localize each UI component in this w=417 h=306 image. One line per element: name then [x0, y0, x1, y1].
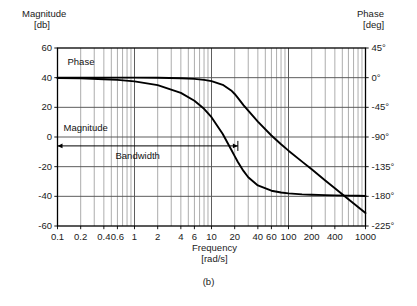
y-tick-label-left: -40	[38, 190, 52, 201]
y-tick-label-right: -90°	[372, 131, 390, 142]
bode-plot-figure: Magnitude [db] Phase [deg] Frequency [ra…	[0, 0, 417, 306]
x-axis-title-text1: Frequency	[6, 242, 417, 253]
x-tick-label: 1000	[336, 231, 396, 242]
x-axis-title: Frequency [rad/s]	[0, 242, 417, 264]
right-axis-title: Phase [deg]	[357, 8, 384, 30]
y-tick-label-right: 45°	[372, 42, 386, 53]
right-axis-title-line1: Phase	[357, 8, 384, 19]
y-tick-label-right: 0°	[372, 72, 381, 83]
magnitude-curve-annotation: Magnitude	[64, 122, 108, 133]
bandwidth-annotation: Bandwidth	[116, 150, 160, 161]
x-axis-title-text2: [rad/s]	[6, 253, 417, 264]
left-axis-title: Magnitude [db]	[22, 8, 66, 30]
y-tick-label-left: 0	[47, 131, 52, 142]
y-tick-label-left: 20	[41, 101, 52, 112]
y-tick-label-right: -225°	[372, 220, 395, 231]
y-tick-label-left: -60	[38, 220, 52, 231]
figure-caption: (b)	[0, 276, 417, 287]
y-tick-label-right: -180°	[372, 190, 395, 201]
y-tick-label-left: 60	[41, 42, 52, 53]
right-axis-title-line2: [deg]	[357, 19, 384, 30]
left-axis-title-line2: [db]	[22, 19, 66, 30]
left-axis-title-line1: Magnitude	[22, 8, 66, 19]
y-tick-label-left: 40	[41, 72, 52, 83]
y-tick-label-right: -135°	[372, 161, 395, 172]
phase-curve-annotation: Phase	[68, 56, 95, 67]
y-tick-label-right: -45°	[372, 101, 390, 112]
y-tick-label-left: -20	[38, 161, 52, 172]
